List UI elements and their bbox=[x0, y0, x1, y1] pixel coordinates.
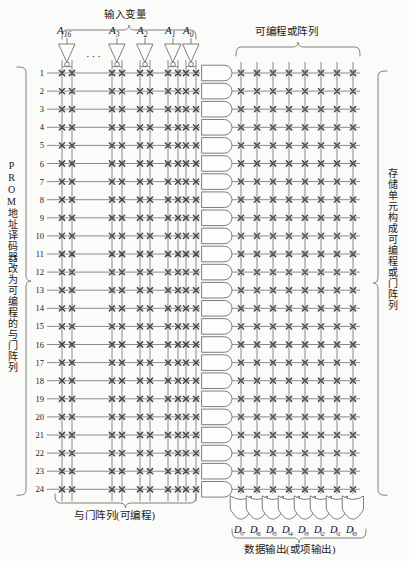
input-label-a0: A0 bbox=[183, 24, 193, 39]
row-number: 9 bbox=[28, 213, 44, 223]
row-number: 20 bbox=[28, 412, 44, 422]
output-label-subscript: 4 bbox=[289, 530, 293, 538]
output-label-subscript: 7 bbox=[241, 530, 245, 538]
output-label-d0: D0 bbox=[346, 524, 357, 538]
input-label-a3: A3 bbox=[109, 24, 119, 39]
input-variables-title: 输入变量 bbox=[104, 6, 146, 21]
output-label-subscript: 3 bbox=[305, 530, 309, 538]
output-label-d2: D2 bbox=[314, 524, 325, 538]
input-label-subscript: 2 bbox=[144, 30, 148, 39]
input-label-name: A bbox=[183, 24, 190, 36]
row-number: 6 bbox=[28, 159, 44, 169]
output-label-subscript: 6 bbox=[257, 530, 261, 538]
input-ellipsis: ··· bbox=[86, 50, 103, 62]
row-number: 2 bbox=[28, 86, 44, 96]
input-label-subscript: 16 bbox=[64, 30, 72, 39]
input-label-name: A bbox=[57, 24, 64, 36]
output-label-d6: D6 bbox=[250, 524, 261, 538]
or-array-title: 可编程或阵列 bbox=[255, 23, 318, 38]
output-label-subscript: 5 bbox=[273, 530, 277, 538]
row-number: 11 bbox=[28, 249, 44, 259]
output-label-d7: D7 bbox=[234, 524, 245, 538]
output-label-subscript: 0 bbox=[353, 530, 357, 538]
row-number: 22 bbox=[28, 448, 44, 458]
row-number: 15 bbox=[28, 321, 44, 331]
output-label-d1: D1 bbox=[330, 524, 341, 538]
output-label-d5: D5 bbox=[266, 524, 277, 538]
and-array-title: 与门阵列(可编程) bbox=[74, 507, 156, 522]
row-number: 21 bbox=[28, 430, 44, 440]
row-number: 23 bbox=[28, 466, 44, 476]
row-number: 19 bbox=[28, 394, 44, 404]
row-number: 16 bbox=[28, 340, 44, 350]
row-number: 13 bbox=[28, 285, 44, 295]
output-label-subscript: 2 bbox=[321, 530, 325, 538]
right-annotation-label: 存储单元构成可编程或门阵列 bbox=[386, 168, 396, 311]
input-label-subscript: 1 bbox=[172, 30, 176, 39]
row-number: 17 bbox=[28, 358, 44, 368]
row-number: 8 bbox=[28, 195, 44, 205]
row-number: 18 bbox=[28, 376, 44, 386]
output-label-d4: D4 bbox=[282, 524, 293, 538]
output-label-d3: D3 bbox=[298, 524, 309, 538]
row-number: 12 bbox=[28, 267, 44, 277]
diagram-canvas bbox=[0, 0, 409, 561]
prom-architecture-diagram: 输入变量 可编程或阵列 与门阵列(可编程) 数据输出(或项输出) PROM地址译… bbox=[0, 0, 409, 561]
input-label-subscript: 0 bbox=[190, 30, 194, 39]
row-number: 5 bbox=[28, 140, 44, 150]
input-label-a2: A2 bbox=[137, 24, 147, 39]
row-number: 4 bbox=[28, 122, 44, 132]
row-number: 3 bbox=[28, 104, 44, 114]
input-label-name: A bbox=[137, 24, 144, 36]
input-label-a1: A1 bbox=[165, 24, 175, 39]
input-label-name: A bbox=[165, 24, 172, 36]
data-output-title: 数据输出(或项输出) bbox=[244, 541, 336, 556]
input-label-a16: A16 bbox=[57, 24, 71, 39]
row-number: 24 bbox=[28, 484, 44, 494]
row-number: 1 bbox=[28, 68, 44, 78]
left-annotation-label: PROM地址译码器改为可编程的与门阵列 bbox=[6, 160, 16, 373]
input-label-name: A bbox=[109, 24, 116, 36]
input-label-subscript: 3 bbox=[116, 30, 120, 39]
row-number: 14 bbox=[28, 303, 44, 313]
output-label-subscript: 1 bbox=[337, 530, 341, 538]
row-number: 10 bbox=[28, 231, 44, 241]
row-number: 7 bbox=[28, 177, 44, 187]
